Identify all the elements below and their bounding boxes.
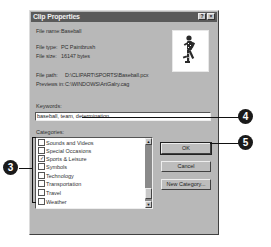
category-item[interactable]: Technology bbox=[38, 172, 142, 180]
category-item[interactable]: Travel bbox=[38, 189, 142, 197]
file-size-value: 16147 bytes bbox=[61, 53, 90, 60]
previews-label: Previews in: bbox=[36, 81, 64, 88]
file-name-value: Baseball bbox=[61, 28, 81, 35]
ok-button[interactable]: OK bbox=[161, 143, 211, 154]
file-type-label: File type: bbox=[36, 44, 57, 51]
file-name-label: File name: bbox=[36, 28, 61, 35]
keywords-label: Keywords: bbox=[36, 103, 62, 109]
category-label: Symbols bbox=[46, 164, 67, 170]
checkbox[interactable] bbox=[38, 163, 45, 170]
checkbox[interactable] bbox=[38, 189, 45, 196]
scroll-thumb[interactable] bbox=[145, 188, 152, 199]
category-label: Special Occasions bbox=[46, 148, 91, 154]
category-item[interactable]: Sounds and Videos bbox=[38, 139, 142, 147]
clip-preview bbox=[172, 30, 209, 72]
cancel-button[interactable]: Cancel bbox=[161, 161, 211, 172]
category-item[interactable]: Special Occasions bbox=[38, 147, 142, 155]
scroll-down-arrow-icon[interactable]: ▼ bbox=[145, 201, 152, 208]
clip-properties-dialog: Clip Properties ? × File name: Baseball … bbox=[29, 10, 219, 235]
category-item[interactable]: Transportation bbox=[38, 180, 142, 188]
dialog-title: Clip Properties bbox=[33, 12, 80, 22]
file-size-label: File size: bbox=[36, 53, 57, 60]
file-type-value: PC Paintbrush bbox=[61, 44, 95, 51]
category-item[interactable]: ✓Sports & Leisure bbox=[38, 155, 142, 163]
category-label: Technology bbox=[46, 173, 74, 179]
help-button[interactable]: ? bbox=[198, 13, 206, 20]
categories-list[interactable]: Sounds and Videos Special Occasions ✓Spo… bbox=[35, 137, 153, 209]
category-item[interactable]: Weather bbox=[38, 198, 142, 206]
category-label: Sounds and Videos bbox=[46, 140, 94, 146]
checkbox[interactable] bbox=[38, 139, 45, 146]
stage: Clip Properties ? × File name: Baseball … bbox=[0, 0, 271, 247]
category-label: Transportation bbox=[46, 181, 81, 187]
title-bar[interactable]: Clip Properties ? × bbox=[31, 12, 217, 22]
previews-value: C:\WINDOWS\ArtGalry.cag bbox=[65, 81, 129, 88]
checkbox[interactable] bbox=[38, 180, 45, 187]
file-path-value: D:\CLIPART\SPORTS\Baseball.pcx bbox=[65, 72, 149, 79]
callout-3-badge: 3 bbox=[3, 160, 18, 175]
categories-label: Categories: bbox=[36, 129, 64, 135]
close-button[interactable]: × bbox=[207, 13, 215, 20]
categories-scrollbar[interactable]: ▲ ▼ bbox=[145, 138, 152, 208]
baseball-player-icon bbox=[173, 31, 208, 71]
category-label: Weather bbox=[46, 199, 67, 205]
callout-4-leader bbox=[82, 117, 239, 118]
categories-bracket bbox=[32, 137, 36, 203]
callout-5-leader bbox=[210, 143, 239, 144]
callout-4-badge: 4 bbox=[238, 109, 253, 124]
checkbox[interactable] bbox=[38, 147, 45, 154]
category-label: Travel bbox=[46, 190, 61, 196]
callout-5-badge: 5 bbox=[238, 135, 253, 150]
new-category-button[interactable]: New Category... bbox=[161, 179, 211, 190]
scroll-up-arrow-icon[interactable]: ▲ bbox=[145, 138, 152, 145]
checkbox-checked[interactable]: ✓ bbox=[38, 155, 45, 162]
category-label: Sports & Leisure bbox=[46, 156, 87, 162]
category-item[interactable]: Symbols bbox=[38, 163, 142, 171]
callout-3-leader bbox=[19, 168, 33, 169]
checkbox[interactable] bbox=[38, 198, 45, 205]
checkbox[interactable] bbox=[38, 172, 45, 179]
file-path-label: File path: bbox=[36, 72, 58, 79]
